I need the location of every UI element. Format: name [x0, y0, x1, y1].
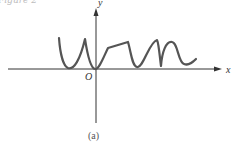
x-axis	[8, 67, 222, 72]
subfigure-label: (a)	[88, 130, 99, 142]
y-axis-label: y	[97, 0, 103, 8]
y-axis-arrow-icon	[94, 8, 99, 16]
x-axis-arrow-icon	[214, 67, 222, 72]
y-axis	[94, 8, 99, 123]
origin-label: O	[85, 71, 92, 82]
x-axis-label: x	[225, 64, 231, 75]
curve	[59, 38, 196, 69]
function-graph: x y O (a)	[0, 0, 231, 146]
